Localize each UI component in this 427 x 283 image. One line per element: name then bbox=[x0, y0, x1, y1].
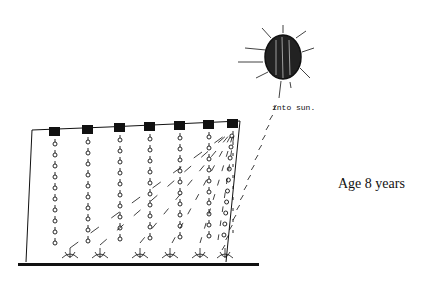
water-drop bbox=[53, 230, 57, 234]
water-drop bbox=[222, 233, 226, 237]
water-drop bbox=[148, 148, 152, 152]
water-drop bbox=[207, 168, 211, 172]
water-drop bbox=[207, 157, 211, 161]
plant bbox=[162, 248, 178, 258]
arrow bbox=[140, 237, 145, 243]
water-drop bbox=[118, 215, 122, 219]
water-drop bbox=[207, 146, 211, 150]
arrow bbox=[226, 151, 228, 157]
container-bar bbox=[26, 121, 240, 262]
arrow bbox=[220, 220, 221, 226]
arrow-to-sun bbox=[240, 195, 243, 200]
arrow bbox=[231, 150, 232, 156]
water-drop bbox=[53, 186, 57, 190]
arrow bbox=[184, 166, 191, 172]
water-drop bbox=[148, 170, 152, 174]
arrow-to-sun bbox=[233, 215, 236, 220]
water-drop bbox=[118, 138, 122, 142]
water-drop bbox=[53, 208, 57, 212]
arrow-to-sun bbox=[244, 185, 247, 190]
arrow bbox=[211, 151, 216, 157]
water-drop bbox=[53, 153, 57, 157]
water-drop bbox=[225, 200, 229, 204]
water-drop bbox=[225, 189, 229, 193]
water-drop bbox=[86, 228, 90, 232]
water-drop bbox=[148, 214, 152, 218]
water-drop bbox=[229, 145, 233, 149]
sun-annotation: into sun. bbox=[272, 103, 315, 112]
arrow bbox=[70, 242, 78, 248]
arrow bbox=[134, 210, 141, 216]
water-drop bbox=[148, 137, 152, 141]
container bbox=[174, 121, 185, 130]
water-drop bbox=[118, 193, 122, 197]
water-drop bbox=[148, 159, 152, 163]
water-drop bbox=[53, 241, 57, 245]
water-drop bbox=[53, 197, 57, 201]
arrow bbox=[196, 194, 199, 200]
water-drop bbox=[118, 237, 122, 241]
water-drop bbox=[178, 158, 182, 162]
arrow-to-sun bbox=[259, 145, 262, 150]
water-drop bbox=[178, 235, 182, 239]
water-drop bbox=[118, 160, 122, 164]
arrow bbox=[153, 182, 161, 188]
water-drop bbox=[86, 206, 90, 210]
plant bbox=[192, 248, 208, 258]
ground-line bbox=[18, 263, 259, 266]
water-drop bbox=[178, 180, 182, 184]
water-drop bbox=[86, 140, 90, 144]
arrow bbox=[222, 165, 224, 171]
arrow bbox=[100, 239, 107, 245]
arrow bbox=[132, 197, 140, 203]
water-drop bbox=[53, 164, 57, 168]
container bbox=[227, 119, 238, 128]
water-drop bbox=[53, 175, 57, 179]
plant bbox=[62, 248, 78, 258]
arrow-to-sun bbox=[237, 205, 240, 210]
arrow-to-sun bbox=[248, 175, 251, 180]
arrow bbox=[201, 151, 208, 157]
arrow-to-sun bbox=[262, 135, 265, 140]
water-drop bbox=[148, 225, 152, 229]
arrow bbox=[224, 192, 225, 198]
plants bbox=[62, 248, 233, 258]
water-drop bbox=[86, 195, 90, 199]
arrow bbox=[91, 227, 99, 233]
water-drop bbox=[148, 181, 152, 185]
arrow bbox=[229, 164, 230, 170]
container bbox=[144, 122, 155, 131]
water-drop bbox=[118, 171, 122, 175]
water-drop bbox=[178, 213, 182, 217]
plant bbox=[92, 248, 108, 258]
water-drop bbox=[118, 182, 122, 186]
arrow bbox=[172, 237, 175, 243]
water-drop bbox=[86, 184, 90, 188]
arrow bbox=[164, 209, 169, 215]
arrow bbox=[168, 181, 175, 187]
arrow bbox=[173, 167, 181, 173]
arrow-to-sun bbox=[266, 125, 269, 130]
water-drop bbox=[86, 151, 90, 155]
arrow-to-sun bbox=[255, 155, 258, 160]
arrow bbox=[188, 209, 191, 215]
arrow bbox=[194, 152, 202, 158]
water-drop bbox=[86, 239, 90, 243]
arrow-to-sun bbox=[222, 245, 225, 250]
child-drawing: into sun. bbox=[0, 0, 427, 283]
water-drop bbox=[148, 203, 152, 207]
plant bbox=[217, 248, 233, 258]
arrow bbox=[199, 165, 204, 171]
containers bbox=[49, 119, 238, 136]
water-drop bbox=[207, 179, 211, 183]
container bbox=[49, 127, 60, 136]
water-drop bbox=[53, 142, 57, 146]
rising-arrows bbox=[70, 105, 276, 250]
arrow bbox=[151, 195, 158, 201]
arrow bbox=[200, 237, 202, 243]
water-drop bbox=[148, 236, 152, 240]
plant bbox=[132, 248, 148, 258]
water-drop bbox=[118, 149, 122, 153]
arrow bbox=[218, 234, 219, 240]
water-drop bbox=[86, 217, 90, 221]
